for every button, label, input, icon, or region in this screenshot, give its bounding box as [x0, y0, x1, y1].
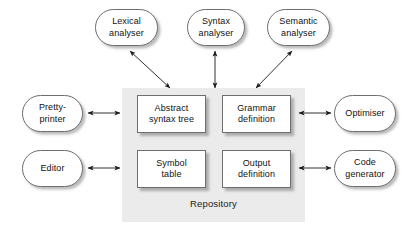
- node-abstract-syntax-tree[interactable]: Abstract syntax tree: [137, 95, 206, 133]
- node-semantic-analyser-line1: Semantic: [279, 16, 317, 26]
- node-grammar-definition-line1: Grammar: [237, 103, 276, 113]
- node-symbol-table-line1: Symbol: [156, 158, 187, 168]
- node-lexical-analyser-line2: analyser: [109, 28, 144, 38]
- node-lexical-analyser[interactable]: Lexical analyser: [95, 9, 158, 46]
- node-pretty-printer-line2: printer: [39, 114, 65, 124]
- node-code-generator-line1: Code: [354, 157, 376, 167]
- arrow-lexical-to-ast: [130, 51, 170, 88]
- node-code-generator[interactable]: Code generator: [334, 150, 396, 187]
- arrow-semantic-to-grammar: [256, 51, 292, 88]
- node-editor[interactable]: Editor: [22, 150, 83, 187]
- node-abstract-syntax-tree-line2: syntax tree: [149, 114, 194, 124]
- node-optimiser-line1: Optimiser: [345, 108, 384, 118]
- node-optimiser[interactable]: Optimiser: [334, 95, 396, 132]
- node-abstract-syntax-tree-line1: Abstract: [155, 103, 189, 113]
- node-syntax-analyser-line1: Syntax: [202, 16, 230, 26]
- node-syntax-analyser-line2: analyser: [199, 28, 234, 38]
- repository-label: Repository: [122, 198, 305, 209]
- node-output-definition-line1: Output: [243, 158, 271, 168]
- node-lexical-analyser-line1: Lexical: [112, 16, 141, 26]
- node-grammar-definition[interactable]: Grammar definition: [222, 95, 291, 133]
- node-output-definition-line2: definition: [238, 169, 275, 179]
- node-semantic-analyser-line2: analyser: [281, 28, 316, 38]
- node-pretty-printer[interactable]: Pretty- printer: [22, 95, 83, 132]
- node-syntax-analyser[interactable]: Syntax analyser: [187, 9, 245, 46]
- repository-architecture-diagram: Lexical analyser Syntax analyser Semanti…: [0, 0, 418, 235]
- node-output-definition[interactable]: Output definition: [222, 150, 291, 188]
- node-code-generator-line2: generator: [345, 169, 384, 179]
- node-symbol-table-line2: table: [161, 169, 181, 179]
- node-pretty-printer-line1: Pretty-: [39, 102, 66, 112]
- node-semantic-analyser[interactable]: Semantic analyser: [267, 9, 330, 46]
- node-symbol-table[interactable]: Symbol table: [137, 150, 206, 188]
- node-grammar-definition-line2: definition: [238, 114, 275, 124]
- node-editor-line1: Editor: [40, 163, 64, 173]
